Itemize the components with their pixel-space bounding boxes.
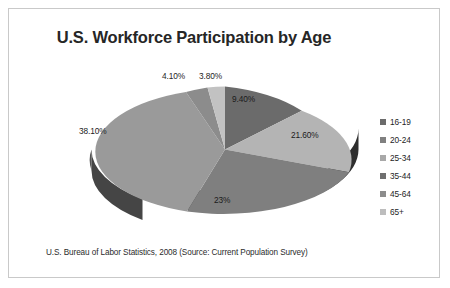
chart-legend: 16-19 20-24 25-34 35-44 45-64 65+ (380, 113, 442, 221)
legend-item-25-34[interactable]: 25-34 (380, 149, 442, 167)
chart-footnote: U.S. Bureau of Labor Statistics, 2008 (S… (46, 248, 308, 257)
legend-label: 45-64 (390, 185, 411, 203)
pie-label-65plus: 3.80% (199, 71, 222, 81)
legend-item-20-24[interactable]: 20-24 (380, 131, 442, 149)
chart-frame: U.S. Workforce Participation by Age (8, 8, 440, 278)
legend-swatch-icon (380, 155, 386, 161)
legend-item-35-44[interactable]: 35-44 (380, 167, 442, 185)
legend-swatch-icon (380, 209, 386, 215)
side-wall-35-44 (90, 150, 92, 171)
pie-label-16-19: 9.40% (232, 94, 255, 104)
legend-label: 65+ (390, 203, 404, 221)
legend-item-45-64[interactable]: 45-64 (380, 185, 442, 203)
pie-label-45-64: 4.10% (162, 71, 185, 81)
pie-chart-svg (9, 9, 441, 279)
legend-label: 16-19 (390, 113, 411, 131)
legend-swatch-icon (380, 119, 386, 125)
legend-swatch-icon (380, 173, 386, 179)
legend-swatch-icon (380, 191, 386, 197)
pie-chart-plot-area: 4.10% 3.80% 9.40% 21.60% 23% 38.10% (9, 9, 441, 279)
legend-label: 25-34 (390, 149, 411, 167)
legend-item-65plus[interactable]: 65+ (380, 203, 442, 221)
legend-label: 35-44 (390, 167, 411, 185)
legend-label: 20-24 (390, 131, 411, 149)
pie-label-25-34: 23% (214, 195, 230, 205)
legend-item-16-19[interactable]: 16-19 (380, 113, 442, 131)
pie-label-20-24: 21.60% (291, 130, 319, 140)
legend-swatch-icon (380, 137, 386, 143)
pie-label-35-44: 38.10% (79, 126, 107, 136)
